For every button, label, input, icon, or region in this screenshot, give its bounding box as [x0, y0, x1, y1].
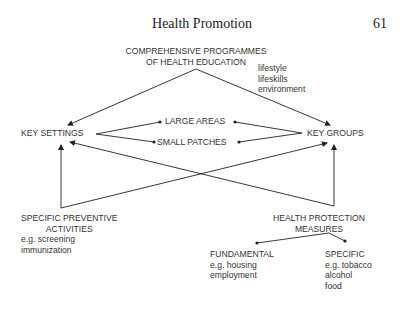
node-specific: SPECIFIC e.g. tobacco alcohol food [325, 249, 372, 291]
node-large-areas: LARGE AREAS [165, 116, 225, 127]
node-fundamental: FUNDAMENTAL e.g. housing employment [210, 249, 274, 281]
node-health-education-notes: lifestyle lifeskills environment [258, 63, 305, 95]
node-specific-preventive-activities: SPECIFIC PREVENTIVE ACTIVITIES e.g. scre… [21, 213, 117, 255]
node-health-protection-measures: HEALTH PROTECTION MEASURES [266, 213, 372, 234]
node-key-groups: KEY GROUPS [307, 128, 364, 139]
node-small-patches: SMALL PATCHES [157, 137, 227, 148]
node-key-settings: KEY SETTINGS [21, 128, 83, 139]
